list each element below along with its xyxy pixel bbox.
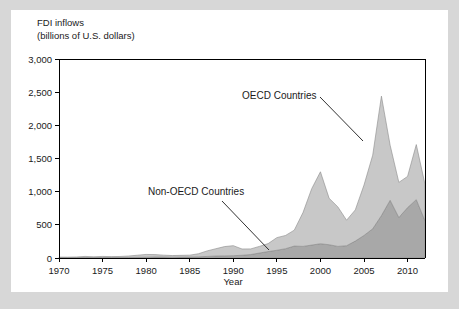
series-areas — [59, 96, 425, 258]
annotation-label-oecd-countries: OECD Countries — [242, 90, 316, 101]
x-tick-label: 1985 — [179, 265, 200, 276]
x-tick-label: 1980 — [136, 265, 157, 276]
chart-title-group: FDI inflows (billions of U.S. dollars) — [37, 17, 135, 41]
y-tick-label: 2,000 — [28, 120, 52, 131]
y-tick-label: 1,000 — [28, 186, 52, 197]
y-tick-label: 3,000 — [28, 54, 52, 65]
annotation-leader-line — [320, 97, 363, 141]
y-tick-label: 500 — [36, 219, 52, 230]
y-tick-label: 1,500 — [28, 153, 52, 164]
x-tick-label: 1995 — [266, 265, 287, 276]
chart-title: FDI inflows — [37, 17, 84, 28]
x-axis-title: Year — [223, 276, 242, 287]
fdi-inflows-area-chart: FDI inflows (billions of U.S. dollars) 0… — [11, 10, 448, 292]
y-axis: 05001,0001,5002,0002,5003,000 — [28, 54, 59, 264]
y-tick-label: 2,500 — [28, 87, 52, 98]
x-tick-label: 2000 — [310, 265, 331, 276]
x-tick-label: 2010 — [397, 265, 418, 276]
figure-container: FDI inflows (billions of U.S. dollars) 0… — [0, 0, 459, 309]
annotation-leader-line — [222, 201, 269, 250]
x-tick-label: 2005 — [353, 265, 374, 276]
x-axis: 197019751980198519901995200020052010 — [48, 258, 425, 276]
x-tick-label: 1975 — [92, 265, 113, 276]
y-tick-label: 0 — [47, 253, 52, 264]
x-tick-label: 1990 — [223, 265, 244, 276]
x-tick-label: 1970 — [48, 265, 69, 276]
chart-subtitle: (billions of U.S. dollars) — [37, 30, 135, 41]
annotation-label-non-oecd-countries: Non-OECD Countries — [148, 186, 244, 197]
chart-panel: FDI inflows (billions of U.S. dollars) 0… — [11, 10, 448, 292]
